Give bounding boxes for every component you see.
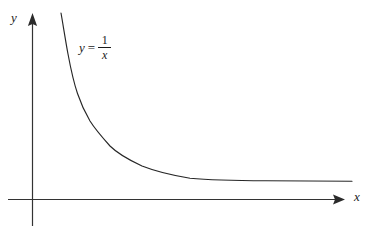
fraction-denominator: x: [100, 48, 109, 61]
y-axis-label: y: [11, 11, 17, 24]
curve-equation-label: y = 1 x: [79, 34, 111, 61]
x-axis-label: x: [354, 190, 360, 203]
plot-canvas: [0, 0, 376, 231]
equation-fraction: 1 x: [98, 34, 111, 61]
equation-equals-sign: =: [88, 41, 95, 54]
fraction-numerator: 1: [100, 34, 110, 47]
figure-root: y x y = 1 x: [0, 0, 376, 231]
equation-lhs: y: [79, 41, 85, 54]
